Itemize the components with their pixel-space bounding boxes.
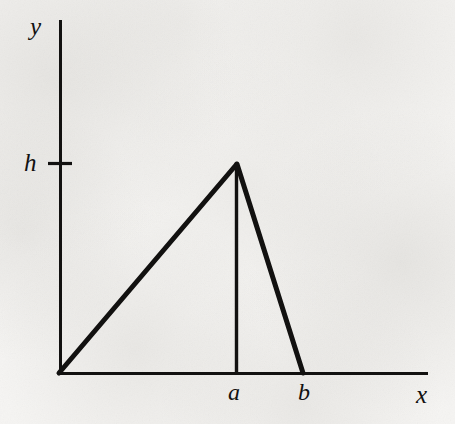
triangle-left-edge xyxy=(59,165,236,373)
x-axis-label: x xyxy=(416,382,427,407)
x-tick-label-b: b xyxy=(298,380,310,404)
y-axis-label: y xyxy=(30,14,41,39)
figure-canvas: y h a b x xyxy=(0,0,455,424)
y-tick-label-h: h xyxy=(24,150,37,175)
triangle-right-edge xyxy=(237,164,303,373)
triangular-distribution-plot xyxy=(0,0,455,424)
x-tick-label-a: a xyxy=(228,380,240,404)
